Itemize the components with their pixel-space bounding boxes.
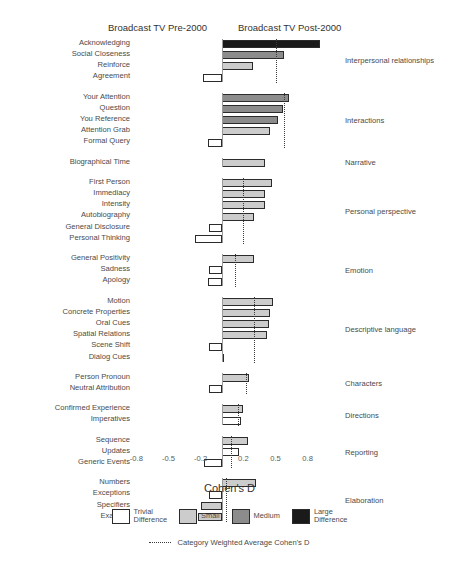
category-weighted-average-line: [235, 254, 236, 286]
category-weighted-average-line: [246, 373, 247, 394]
bar-row-label: You Reference: [80, 115, 130, 123]
average-line-legend-label: Category Weighted Average Cohen's D: [177, 538, 309, 547]
bar-row-label: Oral Cues: [96, 319, 130, 327]
legend-swatch-small: [179, 509, 197, 524]
bar-row-label: Attention Grab: [81, 126, 130, 134]
x-axis-tick-label: 0.2: [238, 454, 249, 463]
bar-row-label: Scene Shift: [91, 341, 130, 349]
bar: [222, 105, 283, 113]
x-axis-title: Cohen's D: [0, 482, 459, 494]
legend-item-small: Small: [179, 509, 219, 524]
group-label: Emotion: [345, 266, 373, 275]
legend-item-trivial: Trivial Difference: [112, 508, 168, 524]
x-axis-tick-label: -0.5: [162, 454, 175, 463]
legend-item-medium: Medium: [232, 509, 280, 524]
bar-row-label: Personal Thinking: [69, 234, 130, 242]
zero-line: [222, 158, 223, 167]
bar: [222, 116, 278, 124]
legend-item-large: Large Difference: [292, 508, 348, 524]
legend-swatch-medium: [232, 509, 250, 524]
group-label: Descriptive language: [345, 325, 416, 334]
bar: [222, 320, 269, 328]
bar-row-label: Intensity: [102, 200, 130, 208]
bar-row-label: Social Closeness: [72, 50, 130, 58]
legend-label-medium: Medium: [254, 512, 280, 520]
bar-row-label: Motion: [107, 297, 130, 305]
legend-label-large: Large Difference: [314, 508, 348, 524]
x-axis: -0.8-0.5-0.20.20.50.8: [0, 450, 459, 476]
category-weighted-average-line: [238, 404, 239, 425]
average-line-legend: Category Weighted Average Cohen's D: [0, 538, 459, 547]
x-axis-tick-label: -0.8: [130, 454, 143, 463]
bar: [222, 127, 270, 135]
chart-root: Broadcast TV Pre-2000 Broadcast TV Post-…: [0, 0, 459, 564]
dotted-line-icon: [149, 542, 171, 543]
legend-label-small: Small: [201, 512, 219, 520]
bar: [209, 266, 222, 274]
group-label: Elaboration: [345, 496, 383, 505]
bar-row-label: Reinforce: [98, 61, 131, 69]
x-axis-tick-label: 0.8: [302, 454, 313, 463]
zero-line: [222, 178, 223, 243]
category-weighted-average-line: [243, 178, 244, 244]
bar: [222, 40, 320, 48]
legend-swatch-large: [292, 509, 310, 524]
bar: [222, 179, 272, 187]
bar: [222, 255, 254, 263]
bar: [222, 298, 273, 306]
bar: [203, 74, 222, 82]
bar-row-label: Autobiography: [81, 211, 130, 219]
zero-line: [222, 39, 223, 82]
bar-row-label: Neutral Attribution: [70, 384, 130, 392]
bar: [222, 159, 265, 167]
header-left-condition: Broadcast TV Pre-2000: [108, 22, 207, 33]
group-label: Personal perspective: [345, 207, 416, 216]
group-label: Interpersonal relationships: [345, 56, 434, 65]
legend-swatch-trivial: [112, 509, 130, 524]
plot-area: AcknowledgingSocial ClosenessReinforceAg…: [0, 36, 459, 450]
bar-row-label: Immediacy: [93, 189, 130, 197]
group-label: Directions: [345, 411, 379, 420]
group-label: Characters: [345, 379, 382, 388]
bar-row-label: Dialog Cues: [89, 353, 130, 361]
bar: [222, 213, 254, 221]
bar: [222, 94, 289, 102]
bar-row-label: Concrete Properties: [62, 308, 130, 316]
bar-row-label: Imperatives: [91, 415, 130, 423]
bar-row-label: Sequence: [96, 436, 130, 444]
bar: [209, 343, 222, 351]
x-axis-tick-label: -0.2: [194, 454, 207, 463]
bar-row-label: Person Pronoun: [75, 373, 130, 381]
bar-row-label: Apology: [103, 276, 130, 284]
zero-line: [222, 297, 223, 362]
effect-size-legend: Trivial DifferenceSmallMediumLarge Diffe…: [0, 508, 459, 524]
category-weighted-average-line: [254, 297, 255, 363]
category-weighted-average-line: [284, 93, 285, 148]
bar: [209, 224, 222, 232]
bar-row-label: Acknowledging: [79, 39, 130, 47]
bar-row-label: General Positivity: [71, 254, 130, 262]
bar: [222, 309, 270, 317]
zero-line: [222, 93, 223, 147]
bar: [222, 62, 253, 70]
bar: [222, 331, 267, 339]
header-right-condition: Broadcast TV Post-2000: [238, 22, 341, 33]
group-label: Interactions: [345, 116, 384, 125]
bar-row-label: General Disclosure: [65, 223, 130, 231]
bar-row-label: Spatial Relations: [73, 330, 130, 338]
bar-row-label: Question: [100, 104, 130, 112]
bar: [222, 437, 248, 445]
category-weighted-average-line: [276, 39, 277, 83]
group-label: Narrative: [345, 158, 376, 167]
bar-row-label: Confirmed Experience: [55, 404, 130, 412]
bar: [208, 139, 222, 147]
bar-row-label: Biographical Time: [70, 158, 130, 166]
bar: [195, 235, 222, 243]
bar-row-label: Your Attention: [83, 93, 130, 101]
bar-row-label: Sadness: [100, 265, 130, 273]
zero-line: [222, 373, 223, 393]
bar-row-label: First Person: [89, 178, 130, 186]
bar: [222, 405, 243, 413]
zero-line: [222, 404, 223, 424]
bar-row-label: Agreement: [93, 72, 130, 80]
